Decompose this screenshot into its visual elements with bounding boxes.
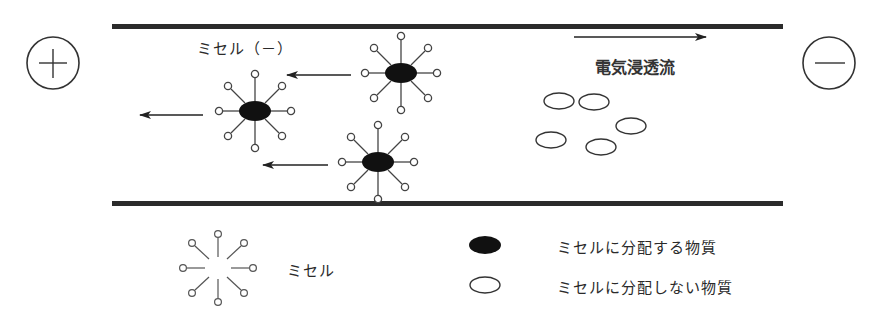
capillary-top-wall <box>112 24 783 29</box>
legend-partitioning-label: ミセルに分配する物質 <box>557 236 717 257</box>
open-solute-icon <box>616 118 646 134</box>
free-solute-group <box>536 93 646 155</box>
minus-electrode-icon <box>803 37 855 89</box>
open-solute-icon <box>544 93 574 109</box>
legend-micelle-label: ミセル <box>287 259 335 280</box>
micelle-icon <box>361 32 440 113</box>
open-solute-icon <box>579 94 609 110</box>
legend-filled-solute-icon <box>469 236 501 254</box>
capillary-bottom-wall <box>112 201 783 206</box>
legend-open-solute-icon <box>470 277 500 293</box>
legend-micelle-icon <box>180 231 257 306</box>
micelle-charge-label: ミセル（－） <box>197 37 293 58</box>
plus-electrode-icon <box>27 37 79 89</box>
micelle-icon <box>338 121 417 202</box>
open-solute-icon <box>586 139 616 155</box>
open-solute-icon <box>536 132 566 148</box>
diagram-canvas <box>0 0 881 323</box>
legend-non-partitioning-label: ミセルに分配しない物質 <box>557 276 733 297</box>
eof-label: 電気浸透流 <box>595 54 675 78</box>
micelle-icon <box>215 70 294 151</box>
